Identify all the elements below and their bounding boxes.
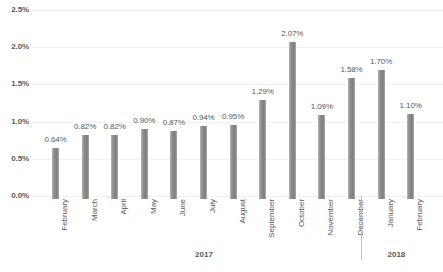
x-axis-tick-label: May: [149, 199, 158, 214]
x-axis-tick-label: June: [178, 199, 187, 216]
bar[interactable]: [82, 135, 89, 199]
bar-slot: 1.58%: [337, 10, 367, 196]
x-axis-tick-label: November: [326, 199, 335, 236]
bar-slot: 0.90%: [130, 10, 160, 196]
bar-slot: 0.95%: [219, 10, 249, 196]
bar[interactable]: [259, 100, 266, 199]
year-group-label: 2017: [41, 250, 367, 259]
bar[interactable]: [348, 78, 355, 199]
y-axis-tick-label: 0.5%: [0, 154, 29, 163]
bar[interactable]: [170, 131, 177, 199]
bar-slot: 0.87%: [159, 10, 189, 196]
bar[interactable]: [230, 125, 237, 199]
bar-slot: 1.09%: [307, 10, 337, 196]
x-axis-tick-label: September: [267, 199, 276, 238]
bar-slot: 0.64%: [41, 10, 71, 196]
x-axis-tick-label: August: [238, 199, 247, 224]
y-axis-tick-label: 2.5%: [0, 5, 29, 14]
bar-slot: 0.82%: [71, 10, 101, 196]
bar-chart: 0.64%0.82%0.82%0.90%0.87%0.94%0.95%1.29%…: [0, 0, 443, 272]
x-axis-tick-label: July: [208, 199, 217, 213]
bar-slot: 1.10%: [396, 10, 426, 196]
year-group-label: 2018: [367, 250, 427, 259]
x-axis-tick-label: April: [119, 199, 128, 215]
x-axis-tick-label: February: [60, 199, 69, 231]
y-axis-tick-label: 0.0%: [0, 191, 29, 200]
y-axis-tick-label: 1.5%: [0, 79, 29, 88]
plot-area: 0.64%0.82%0.82%0.90%0.87%0.94%0.95%1.29%…: [32, 10, 443, 196]
bar[interactable]: [200, 126, 207, 199]
bar[interactable]: [378, 70, 385, 199]
bar-slot: 0.82%: [100, 10, 130, 196]
x-axis-tick-label: October: [297, 199, 306, 227]
bar-value-label: 1.10%: [389, 101, 433, 110]
x-axis-tick-label: February: [415, 199, 424, 231]
bar[interactable]: [111, 135, 118, 199]
bar[interactable]: [407, 114, 414, 199]
bar[interactable]: [141, 129, 148, 199]
year-group-separator: [361, 196, 362, 260]
bar[interactable]: [52, 148, 59, 199]
bar-slot: 0.94%: [189, 10, 219, 196]
x-axis-tick-label: January: [386, 199, 395, 227]
y-axis-tick-label: 1.0%: [0, 117, 29, 126]
bar[interactable]: [289, 42, 296, 199]
bar[interactable]: [318, 115, 325, 199]
x-axis-tick-label: March: [90, 199, 99, 221]
y-axis-tick-label: 2.0%: [0, 42, 29, 51]
